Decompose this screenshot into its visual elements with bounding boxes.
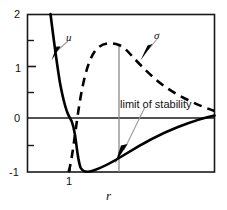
- x-axis-tick-label-1: 1: [66, 176, 72, 187]
- y-axis-tick-label-0: 0: [14, 113, 20, 124]
- y-axis-tick-label-minus-1: -1: [9, 167, 19, 178]
- plot-area: [0, 0, 227, 210]
- x-axis-title: r: [106, 189, 111, 202]
- curve-label-sigma: σ: [154, 30, 159, 41]
- y-axis-tick-label-2: 2: [14, 9, 20, 20]
- chart-figure: 2 1 0 -1 1 r u σ limit of stability: [0, 0, 227, 210]
- curve-label-u: u: [66, 32, 72, 43]
- curve-u: [51, 14, 215, 172]
- limit-of-stability-label: limit of stability: [120, 99, 192, 110]
- y-axis-minor-ticks: [28, 41, 35, 146]
- y-axis-tick-label-1: 1: [15, 63, 21, 74]
- sigma-annotation-pointer: [141, 39, 158, 61]
